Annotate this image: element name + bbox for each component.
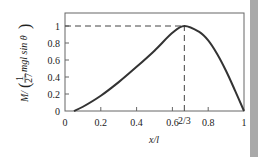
y-tick-label: 0.4 — [48, 72, 61, 83]
y-tick-label: 0.6 — [48, 55, 61, 66]
x-tick-label: 1 — [242, 117, 247, 128]
x-axis-title: x/l — [148, 134, 159, 145]
x-tick-label: 0.8 — [202, 117, 215, 128]
x-tick-label: 0 — [63, 117, 68, 128]
svg-text:27: 27 — [23, 73, 34, 83]
svg-text:): ) — [16, 24, 34, 29]
side-scrollbar-strip — [250, 0, 258, 157]
y-tick-label: 0 — [55, 106, 60, 117]
x-tick-label: 0.6 — [166, 117, 179, 128]
moment-curve — [74, 26, 244, 111]
moment-distribution-chart: 00.20.40.60.81 00.20.40.62/30.81 x/l M/ … — [0, 0, 262, 157]
plot-frame — [65, 13, 244, 111]
x-tick-label: 0.4 — [130, 117, 143, 128]
y-tick-label: 0.8 — [48, 38, 61, 49]
y-tick-label: 0.2 — [48, 89, 61, 100]
x-axis-ticks: 00.20.40.62/30.81 — [63, 107, 247, 128]
x-tick-label: 0.2 — [95, 117, 108, 128]
svg-text:M/: M/ — [19, 90, 30, 103]
svg-text:mgl sin θ: mgl sin θ — [18, 35, 29, 72]
x-tick-label-two-thirds: 2/3 — [178, 115, 191, 126]
y-axis-title: M/ ( 1 27 mgl sin θ ) — [14, 24, 34, 103]
y-tick-label: 1 — [55, 21, 60, 32]
y-axis-ticks: 00.20.40.60.81 — [48, 21, 70, 117]
